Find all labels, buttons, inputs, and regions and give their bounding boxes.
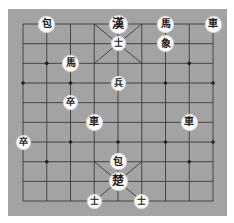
piece-guard[interactable]: 士	[88, 195, 101, 208]
position-marker	[21, 81, 25, 85]
piece-chariot[interactable]: 車	[206, 17, 221, 32]
piece-general-cho[interactable]: 楚	[110, 173, 127, 190]
position-marker	[187, 160, 191, 164]
position-marker	[45, 160, 49, 164]
piece-guard[interactable]: 士	[135, 195, 148, 208]
piece-chariot[interactable]: 車	[87, 115, 102, 130]
piece-horse[interactable]: 馬	[158, 17, 173, 32]
piece-soldier[interactable]: 兵	[112, 77, 125, 90]
piece-soldier[interactable]: 卒	[17, 136, 30, 149]
position-marker	[211, 140, 215, 144]
position-marker	[116, 140, 120, 144]
piece-horse[interactable]: 馬	[63, 56, 78, 71]
piece-guard[interactable]: 士	[112, 37, 125, 50]
position-marker	[69, 140, 73, 144]
piece-general-han[interactable]: 漢	[110, 16, 127, 33]
position-marker	[164, 140, 168, 144]
position-marker	[45, 62, 49, 66]
piece-cannon[interactable]: 包	[39, 17, 54, 32]
piece-chariot[interactable]: 車	[182, 115, 197, 130]
position-marker	[69, 81, 73, 85]
position-marker	[164, 81, 168, 85]
piece-cannon[interactable]: 包	[111, 154, 126, 169]
position-marker	[211, 81, 215, 85]
position-marker	[187, 62, 191, 66]
janggi-board[interactable]: 包漢馬車士象馬兵卒車車卒包楚士士	[8, 9, 227, 216]
